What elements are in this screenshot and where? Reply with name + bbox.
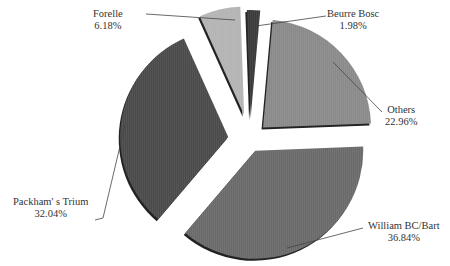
label-others-pct: 22.96% bbox=[385, 116, 417, 128]
label-packham-pct: 32.04% bbox=[13, 208, 88, 220]
label-packham: Packham' s Trium 32.04% bbox=[13, 196, 88, 220]
label-forelle-pct: 6.18% bbox=[93, 20, 123, 32]
label-william: William BC/Bart 36.84% bbox=[368, 220, 440, 244]
slice-texture-packham bbox=[120, 38, 228, 219]
pie-slices bbox=[119, 7, 371, 261]
label-william-pct: 36.84% bbox=[368, 232, 440, 244]
label-packham-name: Packham' s Trium bbox=[13, 196, 88, 208]
label-others: Others 22.96% bbox=[385, 104, 417, 128]
label-beurre: Beurre Bosc 1.98% bbox=[327, 8, 379, 32]
slice-texture-william bbox=[185, 147, 363, 259]
label-beurre-name: Beurre Bosc bbox=[327, 8, 379, 20]
label-william-name: William BC/Bart bbox=[368, 220, 440, 232]
label-beurre-pct: 1.98% bbox=[327, 20, 379, 32]
slice-texture-others bbox=[263, 20, 371, 128]
label-others-name: Others bbox=[385, 104, 417, 116]
label-forelle-name: Forelle bbox=[93, 8, 123, 20]
label-forelle: Forelle 6.18% bbox=[93, 8, 123, 32]
